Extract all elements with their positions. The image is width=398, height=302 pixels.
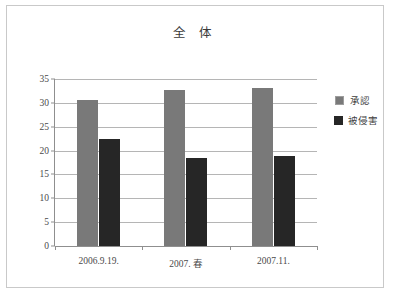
bar-group [142, 79, 229, 246]
x-axis-tick-label: 2006.9.19. [78, 256, 118, 266]
bar-infringement[interactable] [274, 156, 295, 246]
y-axis-tick-label: 0 [44, 241, 49, 251]
y-axis-tick-label: 20 [40, 146, 50, 156]
x-axis-tick-mark [317, 246, 318, 250]
x-axis-tick-mark [142, 246, 143, 250]
gridline [55, 246, 317, 247]
bar-infringement[interactable] [99, 139, 120, 246]
y-axis-tick-label: 35 [40, 74, 50, 84]
bar-infringement[interactable] [186, 158, 207, 246]
y-axis-tick-label: 30 [40, 98, 50, 108]
bar-group [55, 79, 142, 246]
bar-group [230, 79, 317, 246]
plot-wrapper: 05101520253035 2006.9.19.2007. 春2007.11. [55, 79, 317, 246]
legend-item[interactable]: 被侵害 [334, 110, 398, 130]
y-axis-tick-label: 15 [40, 169, 50, 179]
x-axis-tick-label: 2007. 春 [169, 256, 203, 270]
plot-area: 05101520253035 2006.9.19.2007. 春2007.11. [55, 79, 317, 246]
legend-label: 承認 [350, 93, 370, 107]
x-axis-tick-label: 2007.11. [257, 256, 290, 266]
legend-item[interactable]: 承認 [334, 90, 398, 110]
chart-legend: 承認被侵害 [334, 90, 398, 130]
legend-swatch-icon [334, 95, 345, 106]
bar-approval[interactable] [252, 88, 273, 246]
legend-label: 被侵害 [348, 113, 378, 127]
y-axis-tick-label: 10 [40, 193, 50, 203]
legend-swatch-icon [334, 116, 343, 125]
chart-title: 全 体 [7, 22, 383, 41]
y-axis-tick-label: 5 [44, 217, 49, 227]
chart-frame: 全 体 05101520253035 2006.9.19.2007. 春2007… [6, 5, 384, 288]
bar-approval[interactable] [164, 90, 185, 247]
y-axis-tick-label: 25 [40, 122, 50, 132]
x-axis-tick-mark [55, 246, 56, 250]
bar-approval[interactable] [77, 100, 98, 246]
x-axis-tick-mark [230, 246, 231, 250]
